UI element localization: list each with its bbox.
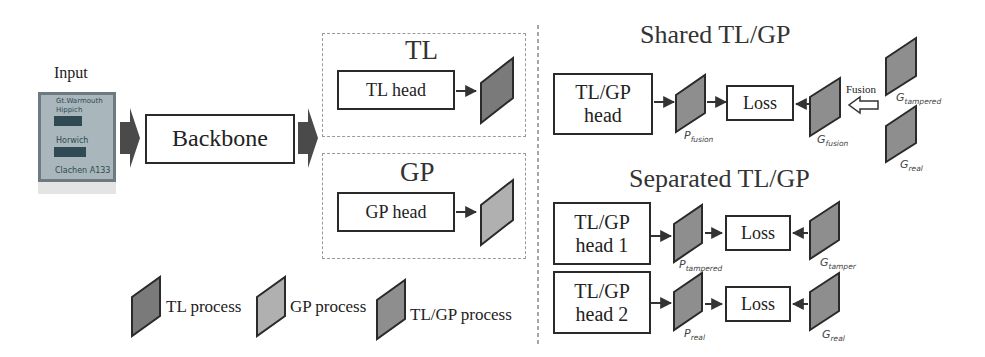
- input-sign-line-2: Hippich: [56, 106, 82, 114]
- shared-head-label-2: head: [584, 104, 622, 127]
- sep-head-1-label-2: head 1: [576, 234, 629, 257]
- sep-head-1-label-1: TL/GP: [574, 211, 630, 234]
- legend-tlgp-label: TL/GP process: [410, 305, 512, 325]
- sep-head-2-label-1: TL/GP: [574, 280, 630, 303]
- p-real-label: Preal: [684, 327, 705, 342]
- g-real-sep-label: Greal: [822, 328, 845, 343]
- g-tampered-label: Gtampered: [896, 91, 941, 106]
- legend-tl-icon: [132, 277, 160, 336]
- input-sign-line-4: Clachen A133: [55, 166, 110, 175]
- g-real-sep-shape: [810, 273, 839, 330]
- p-fusion-shape: [676, 75, 705, 132]
- g-tamper-shape: [810, 202, 839, 259]
- big-arrow-input-backbone: [120, 108, 140, 168]
- tl-branch-title: TL: [405, 35, 438, 66]
- big-arrow-backbone-heads: [298, 108, 318, 168]
- sep-loss-1-box: Loss: [725, 215, 791, 251]
- input-label: Input: [54, 64, 88, 82]
- sep-head-1-box: TL/GP head 1: [553, 202, 651, 265]
- shared-title: Shared TL/GP: [640, 20, 790, 50]
- gp-branch-title: GP: [400, 157, 435, 188]
- shared-loss-label: Loss: [743, 93, 777, 114]
- g-real-shape: [886, 106, 916, 162]
- shared-loss-box: Loss: [726, 85, 794, 121]
- sep-loss-1-label: Loss: [741, 223, 775, 244]
- g-fusion-label: Gfusion: [817, 133, 848, 148]
- sep-head-2-box: TL/GP head 2: [553, 271, 651, 334]
- gp-head-box: GP head: [337, 192, 455, 232]
- g-real-label: Greal: [900, 158, 923, 173]
- backbone-box: Backbone: [145, 114, 295, 164]
- g-fusion-shape: [810, 78, 840, 136]
- fusion-hollow-arrow: [849, 97, 878, 113]
- shared-head-label-1: TL/GP: [575, 81, 631, 104]
- gp-head-label: GP head: [366, 202, 427, 223]
- g-tamper-label: Gtamper: [820, 256, 856, 271]
- separated-title: Separated TL/GP: [629, 164, 810, 194]
- legend-gp-label: GP process: [290, 297, 366, 317]
- p-real-shape: [674, 273, 702, 330]
- g-tampered-shape: [886, 38, 916, 95]
- legend-tlgp-icon: [377, 280, 405, 339]
- p-tampered-shape: [674, 205, 702, 262]
- input-sign-line-3: Horwich: [56, 136, 88, 145]
- shared-head-box: TL/GP head: [553, 73, 653, 135]
- tl-head-label: TL head: [366, 80, 426, 101]
- legend-tl-label: TL process: [166, 297, 241, 317]
- sep-head-2-label-2: head 2: [576, 303, 629, 326]
- tl-head-box: TL head: [337, 70, 455, 110]
- backbone-label: Backbone: [172, 125, 268, 153]
- sep-loss-2-label: Loss: [741, 294, 775, 315]
- legend-gp-icon: [257, 277, 285, 336]
- sep-loss-2-box: Loss: [725, 286, 791, 322]
- fusion-label: Fusion: [846, 83, 876, 95]
- input-sign-line-1: Gt.Warmouth: [56, 97, 103, 105]
- p-fusion-label: Pfusion: [684, 129, 713, 144]
- p-tampered-label: Ptampered: [679, 258, 722, 273]
